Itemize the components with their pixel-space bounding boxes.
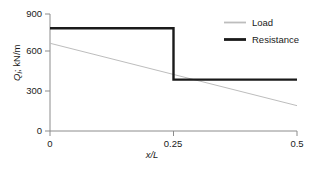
- y-axis-title: Qi; kN/m: [12, 33, 22, 93]
- legend-swatch-resistance: [224, 34, 246, 45]
- x-tick-label-0: 0: [30, 139, 70, 149]
- x-tick-label-05: 0.5: [277, 139, 317, 149]
- y-tick-label-300: 300: [4, 86, 42, 96]
- x-axis-title: x/L: [132, 150, 172, 160]
- legend-label-resistance: Resistance: [252, 35, 299, 45]
- chart-legend: Load Resistance: [224, 17, 299, 45]
- legend-label-load: Load: [252, 18, 273, 28]
- y-tick-label-900: 900: [4, 9, 42, 19]
- legend-item-load: Load: [224, 17, 299, 28]
- y-tick-label-600: 600: [4, 46, 42, 56]
- chart-figure: 0 300 600 900 0 0.25 0.5 Qi; kN/m x/L Lo…: [0, 0, 321, 170]
- legend-swatch-load: [224, 17, 246, 28]
- y-axis-title-subscript: i: [16, 72, 23, 74]
- legend-item-resistance: Resistance: [224, 34, 299, 45]
- y-axis-ticks: [45, 14, 50, 131]
- x-axis-ticks: [50, 131, 297, 136]
- x-tick-label-025: 0.25: [153, 139, 193, 149]
- y-axis-title-symbol: Q: [11, 74, 22, 81]
- y-tick-label-0: 0: [4, 126, 42, 136]
- y-axis-title-units: ; kN/m: [11, 45, 22, 72]
